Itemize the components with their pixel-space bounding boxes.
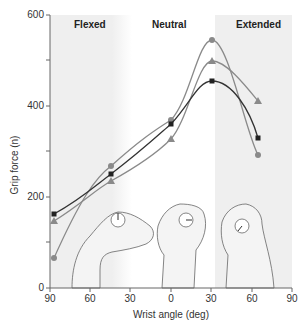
region-label-neutral: Neutral bbox=[152, 19, 187, 30]
y-axis-label: Grip force (n) bbox=[9, 136, 20, 195]
x-tick-60-left: 60 bbox=[84, 293, 96, 304]
x-tick-0: 0 bbox=[168, 293, 174, 304]
x-axis-label: Wrist angle (deg) bbox=[133, 309, 209, 320]
x-tick-90-right: 90 bbox=[286, 293, 298, 304]
x-tick-30-right: 30 bbox=[205, 293, 217, 304]
x-tick-30-left: 30 bbox=[124, 293, 136, 304]
y-tick-600: 600 bbox=[27, 9, 44, 20]
y-tick-0: 0 bbox=[38, 282, 44, 293]
region-label-extended: Extended bbox=[236, 19, 281, 30]
y-tick-400: 400 bbox=[27, 100, 44, 111]
x-tick-60-right: 60 bbox=[246, 293, 258, 304]
x-tick-90-left: 90 bbox=[44, 293, 56, 304]
grip-force-chart: Flexed Neutral Extended 0 200 400 600 bbox=[0, 0, 300, 332]
x-ticks bbox=[50, 288, 292, 292]
y-ticks bbox=[46, 15, 50, 288]
y-tick-200: 200 bbox=[27, 191, 44, 202]
region-label-flexed: Flexed bbox=[74, 19, 106, 30]
